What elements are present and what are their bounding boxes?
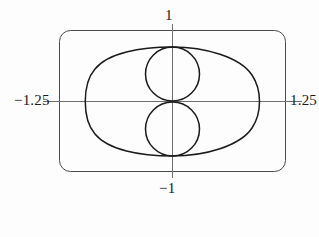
x-axis-min-label: −1.25 (14, 93, 50, 108)
y-axis-min-label: −1 (159, 181, 175, 196)
plot-figure: 1 −1 −1.25 1.25 (0, 0, 319, 237)
y-axis-max-label: 1 (165, 8, 173, 23)
x-axis-max-label: 1.25 (290, 93, 317, 108)
plot-canvas (0, 0, 319, 237)
